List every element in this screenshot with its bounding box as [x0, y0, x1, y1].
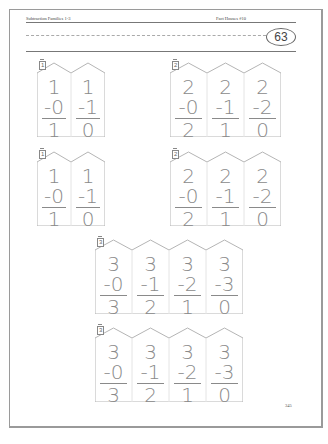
difference: 2	[173, 120, 204, 140]
minuend: 2	[247, 77, 278, 97]
difference: 0	[209, 297, 240, 317]
difference: 3	[98, 385, 129, 405]
worksheet-series: Fact Houses #10	[216, 16, 246, 21]
fact-house: 33 -0 33 -1 23 -2 13 -3 0	[95, 238, 243, 314]
minuend: 1	[74, 166, 102, 186]
house-number-badge: 3	[97, 324, 104, 335]
subtrahend: -0	[98, 274, 129, 294]
subtrahend: -2	[247, 97, 278, 117]
minuend: 2	[173, 166, 204, 186]
difference: 1	[210, 120, 241, 140]
fact-house: 11 -0 11 -1 0	[37, 61, 105, 137]
name-line	[26, 35, 266, 36]
footer-page-number: 345	[285, 403, 292, 408]
difference: 1	[40, 209, 68, 229]
subtrahend: -1	[74, 186, 102, 206]
minuend: 3	[172, 254, 203, 274]
fact-house: 22 -0 22 -1 12 -2 0	[170, 150, 281, 226]
subtraction-problem: 3 -1 2	[135, 254, 166, 317]
subtraction-problem: 2 -2 0	[247, 77, 278, 140]
minuend: 3	[209, 342, 240, 362]
subtrahend: -0	[173, 186, 204, 206]
subtrahend: -1	[135, 362, 166, 382]
difference: 1	[172, 297, 203, 317]
difference: 2	[135, 385, 166, 405]
minuend: 3	[135, 254, 166, 274]
minuend: 2	[210, 166, 241, 186]
subtrahend: -0	[173, 97, 204, 117]
difference: 0	[247, 120, 278, 140]
subtrahend: -1	[74, 97, 102, 117]
subtraction-problem: 3 -3 0	[209, 342, 240, 405]
subtrahend: -2	[172, 362, 203, 382]
subtraction-problem: 3 -2 1	[172, 254, 203, 317]
subtrahend: -3	[209, 274, 240, 294]
subtraction-problem: 1 -1 0	[74, 77, 102, 140]
house-number-badge: 2	[172, 59, 179, 70]
house-number-badge: 1	[39, 59, 46, 70]
subtrahend: -1	[135, 274, 166, 294]
fact-house: 11 -0 11 -1 0	[37, 150, 105, 226]
subtraction-problem: 3 -0 3	[98, 342, 129, 405]
worksheet-title: Subtraction Families 1-3	[26, 16, 71, 21]
subtrahend: -1	[210, 97, 241, 117]
minuend: 2	[247, 166, 278, 186]
difference: 2	[135, 297, 166, 317]
subtraction-problem: 2 -2 0	[247, 166, 278, 229]
subtraction-problem: 3 -1 2	[135, 342, 166, 405]
minuend: 3	[135, 342, 166, 362]
subtrahend: -0	[40, 186, 68, 206]
difference: 0	[209, 385, 240, 405]
subtraction-problem: 2 -0 2	[173, 166, 204, 229]
minuend: 2	[210, 77, 241, 97]
house-number-badge: 1	[39, 148, 46, 159]
difference: 0	[74, 120, 102, 140]
minuend: 1	[40, 77, 68, 97]
minuend: 2	[173, 77, 204, 97]
difference: 0	[74, 209, 102, 229]
subtraction-problem: 2 -0 2	[173, 77, 204, 140]
subtrahend: -2	[247, 186, 278, 206]
difference: 1	[210, 209, 241, 229]
subtraction-problem: 3 -0 3	[98, 254, 129, 317]
subtraction-problem: 3 -2 1	[172, 342, 203, 405]
subtraction-problem: 2 -1 1	[210, 166, 241, 229]
subtraction-problem: 1 -1 0	[74, 166, 102, 229]
subtraction-problem: 1 -0 1	[40, 77, 68, 140]
subtrahend: -0	[98, 362, 129, 382]
minuend: 3	[98, 254, 129, 274]
difference: 0	[247, 209, 278, 229]
fact-house: 22 -0 22 -1 12 -2 0	[170, 61, 281, 137]
house-number-badge: 2	[172, 148, 179, 159]
difference: 1	[172, 385, 203, 405]
fact-house: 33 -0 33 -1 23 -2 13 -3 0	[95, 326, 243, 402]
difference: 1	[40, 120, 68, 140]
difference: 3	[98, 297, 129, 317]
subtraction-problem: 1 -0 1	[40, 166, 68, 229]
header-rule	[26, 22, 296, 23]
page-circle-number: 63	[266, 28, 296, 46]
minuend: 3	[98, 342, 129, 362]
subtrahend: -0	[40, 97, 68, 117]
header-rule-bottom	[26, 51, 296, 52]
minuend: 3	[209, 254, 240, 274]
subtrahend: -1	[210, 186, 241, 206]
difference: 2	[173, 209, 204, 229]
subtraction-problem: 2 -1 1	[210, 77, 241, 140]
subtrahend: -3	[209, 362, 240, 382]
house-number-badge: 3	[97, 236, 104, 247]
minuend: 1	[40, 166, 68, 186]
minuend: 3	[172, 342, 203, 362]
minuend: 1	[74, 77, 102, 97]
subtrahend: -2	[172, 274, 203, 294]
subtraction-problem: 3 -3 0	[209, 254, 240, 317]
